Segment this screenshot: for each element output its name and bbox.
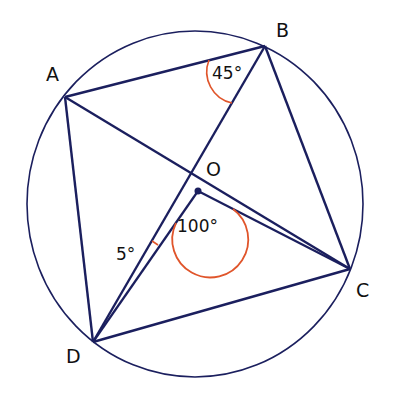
radius-OC [198,191,350,269]
label-C: C [356,279,369,301]
side-CD [93,269,350,342]
angle-label-45: 45° [212,63,242,83]
label-B: B [276,19,289,41]
diagonal-BD [93,46,265,342]
geometry-diagram: A B C D O 45° 100° 5° [0,0,393,397]
label-O: O [206,158,221,180]
angle-label-100: 100° [177,216,218,236]
side-DA [65,97,93,342]
label-D: D [66,345,81,367]
center-point [195,188,202,195]
side-BC [265,46,350,269]
diagonal-AC [65,97,350,269]
label-A: A [46,63,59,85]
angle-label-5: 5° [116,244,135,264]
angle-arc-5 [152,241,158,245]
